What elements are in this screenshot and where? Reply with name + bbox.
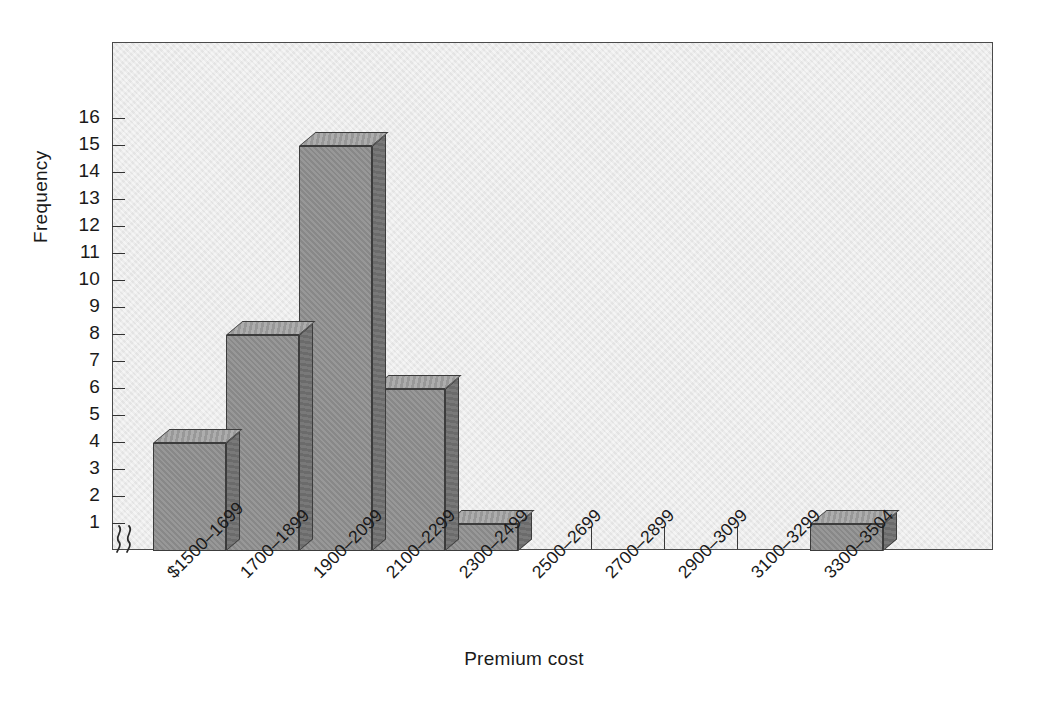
y-tick-label: 4: [60, 430, 100, 452]
y-tick-mark: [112, 199, 125, 200]
y-tick-label: 15: [60, 133, 100, 155]
y-tick-mark: [112, 496, 125, 497]
y-tick-mark: [112, 388, 125, 389]
x-axis-title: Premium cost: [0, 648, 1048, 670]
y-tick-mark: [112, 361, 125, 362]
y-tick-mark: [112, 280, 125, 281]
y-tick-mark: [112, 442, 125, 443]
y-tick-label: 2: [60, 484, 100, 506]
y-tick-mark: [112, 118, 125, 119]
histogram-figure: 12345678910111213141516 Frequency $1500–…: [0, 0, 1048, 710]
y-tick-label: 16: [60, 106, 100, 128]
y-tick-label: 14: [60, 160, 100, 182]
y-tick-label: 5: [60, 403, 100, 425]
y-tick-label: 8: [60, 322, 100, 344]
y-tick-mark: [112, 172, 125, 173]
y-tick-label: 10: [60, 268, 100, 290]
axis-break-icon: [110, 524, 144, 554]
plot-area: [112, 42, 993, 550]
y-tick-label: 1: [60, 511, 100, 533]
y-tick-mark: [112, 307, 125, 308]
y-tick-label: 7: [60, 349, 100, 371]
y-tick-label: 3: [60, 457, 100, 479]
bar-side-face: [372, 134, 386, 551]
y-tick-label: 13: [60, 187, 100, 209]
y-tick-mark: [112, 253, 125, 254]
y-tick-mark: [112, 469, 125, 470]
y-tick-label: 11: [60, 241, 100, 263]
y-tick-label: 6: [60, 376, 100, 398]
y-tick-mark: [112, 415, 125, 416]
x-tick-mark: [153, 527, 154, 549]
y-tick-label: 12: [60, 214, 100, 236]
y-tick-mark: [112, 226, 125, 227]
y-tick-mark: [112, 145, 125, 146]
y-axis-title: Frequency: [30, 151, 52, 243]
bar-side-face: [226, 431, 240, 551]
y-tick-mark: [112, 334, 125, 335]
y-tick-label: 9: [60, 295, 100, 317]
